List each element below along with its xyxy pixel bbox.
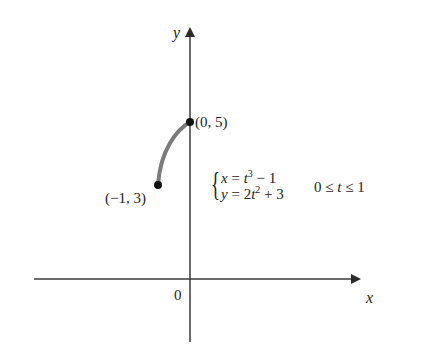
equation-y: y = 2t2 + 3 [221, 187, 284, 202]
left-brace: { [211, 167, 220, 201]
y-axis-label: y [173, 25, 180, 41]
start-point-neg1-3 [154, 181, 162, 189]
parametric-curve [158, 122, 190, 185]
origin-label: 0 [174, 288, 182, 303]
t-range: 0 ≤ t ≤ 1 [314, 180, 365, 195]
equation-x: x = t3 − 1 [221, 171, 276, 186]
x-axis-label: x [366, 290, 373, 306]
end-point-0-5 [186, 118, 194, 126]
point-label-end: (0, 5) [195, 115, 228, 130]
point-label-start: (−1, 3) [105, 191, 146, 206]
